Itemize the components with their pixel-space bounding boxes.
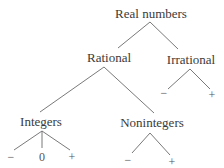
edge-rational-nonintegers	[104, 67, 154, 113]
node-rational: Rational	[87, 51, 131, 65]
edge-nonintegers-neg	[132, 133, 150, 153]
leaf-nonintegers-negative: −	[125, 154, 132, 166]
leaf-irrational-negative: −	[161, 87, 168, 99]
node-nonintegers: Nonintegers	[120, 116, 184, 130]
edge-integers-neg	[14, 131, 42, 150]
leaf-integers-negative: −	[8, 151, 15, 163]
leaf-integers-positive: +	[69, 151, 76, 163]
node-irrational: Irrational	[167, 53, 215, 67]
node-integers: Integers	[20, 115, 62, 129]
edge-real-irrational	[150, 22, 178, 49]
edge-real-rational	[118, 22, 150, 48]
tree-edges	[0, 0, 224, 168]
edge-irrational-pos	[190, 69, 210, 89]
leaf-nonintegers-positive: +	[169, 156, 176, 168]
node-real-numbers: Real numbers	[115, 7, 187, 21]
leaf-irrational-positive: +	[209, 89, 216, 101]
edge-nonintegers-pos	[150, 133, 170, 155]
edge-rational-integers	[40, 67, 104, 112]
edge-integers-pos	[42, 131, 70, 150]
leaf-integers-zero: 0	[39, 151, 45, 163]
edge-irrational-neg	[168, 69, 190, 89]
